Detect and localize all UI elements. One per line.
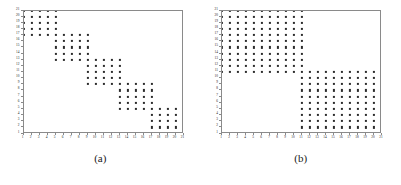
scatter-point	[94, 77, 96, 79]
scatter-point	[142, 102, 144, 104]
scatter-point	[174, 108, 176, 110]
scatter-point	[285, 34, 287, 36]
x-axis-label: 12	[109, 136, 112, 139]
scatter-point	[245, 16, 247, 18]
x-axis-label: 4	[46, 136, 48, 139]
scatter-point	[253, 71, 255, 73]
scatter-point	[349, 102, 351, 104]
x-axis-label: 13	[117, 136, 120, 139]
scatter-point	[341, 89, 343, 91]
scatter-point	[301, 77, 303, 79]
scatter-point	[30, 28, 32, 30]
x-axis-label: 16	[141, 136, 144, 139]
scatter-point	[86, 34, 88, 36]
scatter-point	[277, 16, 279, 18]
x-axis-label: 6	[62, 136, 64, 139]
scatter-point	[309, 89, 311, 91]
scatter-point	[301, 108, 303, 110]
scatter-point	[229, 11, 231, 12]
y-axis-label: 16	[215, 39, 218, 42]
scatter-point	[365, 96, 367, 98]
y-axis-label: 11	[16, 69, 19, 72]
scatter-point	[150, 89, 152, 91]
scatter-point	[333, 89, 335, 91]
scatter-point	[222, 52, 223, 54]
scatter-point	[293, 28, 295, 30]
x-axis-label: 7	[268, 136, 270, 139]
scatter-point	[30, 11, 32, 12]
scatter-point	[373, 120, 375, 122]
scatter-point	[325, 83, 327, 85]
y-axis-tick	[219, 16, 221, 17]
scatter-point	[142, 108, 144, 110]
scatter-point	[293, 34, 295, 36]
scatter-point	[309, 120, 311, 122]
scatter-point	[277, 40, 279, 42]
scatter-point	[301, 114, 303, 116]
scatter-point	[317, 126, 319, 128]
scatter-point	[158, 126, 160, 128]
scatter-point	[301, 102, 303, 104]
scatter-point	[285, 22, 287, 24]
y-axis-label: 18	[16, 26, 19, 29]
scatter-point	[301, 16, 303, 18]
scatter-point	[54, 46, 56, 48]
scatter-point	[62, 34, 64, 36]
x-axis-label: 11	[299, 136, 302, 139]
scatter-point	[102, 71, 104, 73]
scatter-point	[293, 65, 295, 67]
y-axis-tick	[219, 71, 221, 72]
x-axis-label: 12	[307, 136, 310, 139]
scatter-point	[261, 59, 263, 61]
scatter-point	[357, 126, 359, 128]
scatter-point	[325, 126, 327, 128]
y-axis-tick	[21, 71, 23, 72]
y-axis-label: 7	[18, 94, 20, 97]
scatter-point	[293, 46, 295, 48]
scatter-point	[349, 126, 351, 128]
scatter-point	[70, 40, 72, 42]
y-axis-tick	[219, 133, 221, 134]
x-axis-label: 3	[236, 136, 238, 139]
scatter-point	[357, 120, 359, 122]
y-axis-tick	[219, 34, 221, 35]
scatter-point	[237, 11, 239, 12]
scatter-point	[317, 71, 319, 73]
y-axis-tick	[219, 22, 221, 23]
scatter-point	[134, 108, 136, 110]
x-axis-label: 5	[252, 136, 254, 139]
scatter-point	[365, 120, 367, 122]
scatter-point	[373, 114, 375, 116]
scatter-point	[142, 96, 144, 98]
y-axis-tick	[21, 65, 23, 66]
scatter-point	[222, 11, 223, 12]
y-axis-tick	[21, 126, 23, 127]
x-axis-label: 1	[220, 136, 222, 139]
scatter-point	[365, 71, 367, 73]
scatter-point	[237, 71, 239, 73]
y-axis-label: 14	[16, 51, 19, 54]
scatter-point	[134, 83, 136, 85]
scatter-point	[285, 65, 287, 67]
x-axis-label: 5	[54, 136, 56, 139]
x-axis-label: 10	[93, 136, 96, 139]
scatter-point	[54, 59, 56, 61]
scatter-point	[102, 59, 104, 61]
scatter-point	[134, 89, 136, 91]
scatter-point	[349, 83, 351, 85]
scatter-point	[70, 34, 72, 36]
y-axis-tick	[21, 40, 23, 41]
scatter-point	[253, 52, 255, 54]
scatter-point	[261, 65, 263, 67]
scatter-point	[301, 126, 303, 128]
y-axis-label: 11	[215, 69, 218, 72]
scatter-point	[222, 59, 223, 61]
scatter-point	[269, 59, 271, 61]
scatter-point	[245, 22, 247, 24]
scatter-point	[30, 16, 32, 18]
scatter-point	[349, 114, 351, 116]
y-axis-tick	[219, 102, 221, 103]
scatter-point	[62, 46, 64, 48]
scatter-point	[333, 108, 335, 110]
scatter-point	[86, 65, 88, 67]
